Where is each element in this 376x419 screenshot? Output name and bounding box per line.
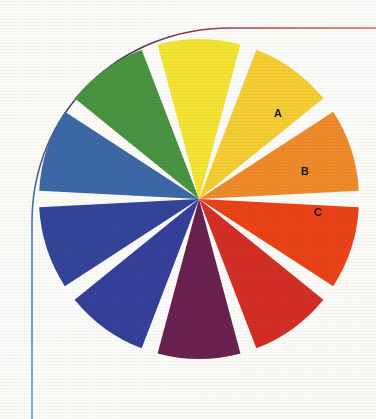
wedge-label-b: B <box>301 166 309 177</box>
wedge-label-a: A <box>274 108 282 119</box>
wedge-label-c: C <box>314 207 322 218</box>
